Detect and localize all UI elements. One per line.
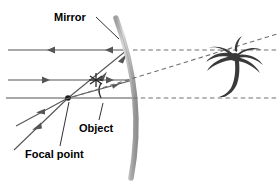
mirror-ray-diagram: Mirror Object Focal point	[0, 0, 278, 192]
diagram-background	[0, 0, 278, 192]
palm-crown	[230, 53, 240, 61]
focal-point-label: Focal point	[25, 148, 84, 160]
diagram-canvas: Mirror Object Focal point	[0, 0, 278, 192]
object-label: Object	[79, 122, 114, 134]
mirror-label: Mirror	[54, 11, 87, 23]
